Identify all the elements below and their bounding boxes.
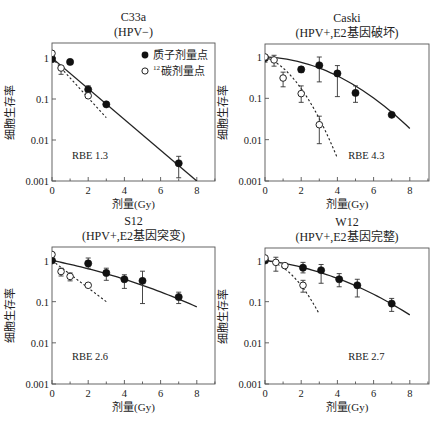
panel-title: C33a xyxy=(121,10,147,24)
legend-filled-circle-icon xyxy=(142,52,149,59)
x-tick-label: 8 xyxy=(407,388,412,399)
y-axis-label: 细胞生存率 xyxy=(216,85,229,140)
y-axis-label: 细胞生存率 xyxy=(3,85,16,140)
panel-c33a: C33a(HPV−)10.10.010.00102468剂量(Gy)细胞生存率R… xyxy=(3,10,215,211)
y-tick-label: 1 xyxy=(257,256,262,267)
legend-label: 质子剂量点 xyxy=(153,48,208,61)
carbon-data-point xyxy=(58,65,65,72)
proton-data-point xyxy=(388,111,395,118)
carbon-data-point xyxy=(67,273,74,280)
y-tick-label: 1 xyxy=(257,52,262,63)
legend-open-circle-icon xyxy=(142,68,148,74)
proton-data-point xyxy=(85,260,92,267)
proton-data-point xyxy=(103,269,110,276)
panel-title: Caski xyxy=(333,11,361,25)
panel-s12: S12(HPV+,E2基因突变)10.10.010.00102468剂量(Gy)… xyxy=(3,214,215,414)
proton-data-point xyxy=(316,62,323,69)
x-axis-label: 剂量(Gy) xyxy=(326,400,369,414)
y-tick-label: 0.1 xyxy=(249,93,262,104)
proton-data-point xyxy=(67,58,74,65)
x-tick-label: 0 xyxy=(262,185,267,196)
x-tick-label: 0 xyxy=(49,185,54,196)
proton-data-point xyxy=(175,160,182,167)
carbon-data-point xyxy=(282,262,289,269)
rbe-annotation: RBE 2.7 xyxy=(348,351,384,362)
proton-data-point xyxy=(352,89,359,96)
plot-area xyxy=(261,54,409,159)
y-tick-label: 0.1 xyxy=(36,94,49,105)
carbon-data-point xyxy=(49,251,56,258)
y-tick-label: 1 xyxy=(44,53,49,64)
x-tick-label: 4 xyxy=(335,185,341,196)
x-tick-label: 2 xyxy=(86,388,91,399)
plot-frame xyxy=(265,44,429,181)
proton-data-point xyxy=(175,293,182,300)
y-tick-label: 0.01 xyxy=(244,135,262,146)
x-tick-label: 6 xyxy=(371,185,376,196)
proton-data-point xyxy=(354,282,361,289)
carbon-data-point xyxy=(262,54,269,61)
panel-title: S12 xyxy=(124,214,143,228)
x-tick-label: 6 xyxy=(158,185,163,196)
x-tick-label: 8 xyxy=(407,185,412,196)
carbon-data-point xyxy=(300,282,307,289)
panel-caski: Caski(HPV+,E2基因破坏)10.10.010.00102468剂量(G… xyxy=(216,11,429,211)
proton-data-point xyxy=(336,276,343,283)
y-axis-label: 细胞生存率 xyxy=(216,289,229,344)
x-tick-label: 6 xyxy=(371,388,376,399)
panel-subtitle: (HPV+,E2基因完整) xyxy=(295,229,398,244)
plot-frame xyxy=(52,247,215,384)
proton-data-point xyxy=(121,276,128,283)
figure: C33a(HPV−)10.10.010.00102468剂量(Gy)细胞生存率R… xyxy=(0,0,441,426)
plot-area xyxy=(261,255,409,315)
x-axis-label: 剂量(Gy) xyxy=(112,197,155,211)
y-tick-label: 0.01 xyxy=(31,338,49,349)
y-tick-label: 0.1 xyxy=(249,297,262,308)
plot-area xyxy=(48,251,196,307)
panel-subtitle: (HPV−) xyxy=(114,25,153,39)
y-tick-label: 0.001 xyxy=(238,379,262,390)
x-tick-label: 4 xyxy=(335,388,341,399)
y-tick-label: 0.01 xyxy=(31,135,49,146)
rbe-annotation: RBE 2.6 xyxy=(72,351,108,362)
plot-frame xyxy=(265,248,429,384)
x-tick-label: 6 xyxy=(158,388,163,399)
carbon-data-point xyxy=(49,50,56,57)
x-axis-label: 剂量(Gy) xyxy=(112,400,155,414)
y-tick-label: 1 xyxy=(44,256,49,267)
x-tick-label: 0 xyxy=(49,388,54,399)
carbon-data-point xyxy=(273,259,280,266)
y-axis-label: 细胞生存率 xyxy=(3,288,16,343)
carbon-fit-curve xyxy=(265,261,319,315)
rbe-annotation: RBE 4.3 xyxy=(348,150,384,161)
proton-data-point xyxy=(103,101,110,108)
y-tick-label: 0.001 xyxy=(25,379,49,390)
x-tick-label: 2 xyxy=(86,185,91,196)
x-tick-label: 4 xyxy=(122,185,128,196)
panel-subtitle: (HPV+,E2基因破坏) xyxy=(295,25,398,40)
x-tick-label: 8 xyxy=(194,185,199,196)
carbon-data-point xyxy=(271,57,278,64)
proton-data-point xyxy=(298,66,305,73)
carbon-data-point xyxy=(58,268,65,275)
carbon-data-point xyxy=(85,92,92,99)
carbon-data-point xyxy=(316,121,323,128)
x-tick-label: 4 xyxy=(122,388,128,399)
rbe-annotation: RBE 1.3 xyxy=(72,150,108,161)
proton-data-point xyxy=(334,70,341,77)
x-tick-label: 8 xyxy=(194,388,199,399)
y-tick-label: 0.1 xyxy=(36,297,49,308)
panel-w12: W12(HPV+,E2基因完整)10.10.010.00102468剂量(Gy)… xyxy=(216,215,429,414)
proton-data-point xyxy=(318,267,325,274)
x-tick-label: 2 xyxy=(299,185,304,196)
carbon-data-point xyxy=(280,75,287,82)
y-tick-label: 0.01 xyxy=(244,338,262,349)
proton-data-point xyxy=(388,300,395,307)
carbon-data-point xyxy=(262,255,269,262)
carbon-data-point xyxy=(298,90,305,97)
panel-title: W12 xyxy=(335,215,358,229)
x-tick-label: 2 xyxy=(299,388,304,399)
proton-data-point xyxy=(139,277,146,284)
legend-superscript: 12 xyxy=(153,64,161,72)
x-axis-label: 剂量(Gy) xyxy=(326,197,369,211)
